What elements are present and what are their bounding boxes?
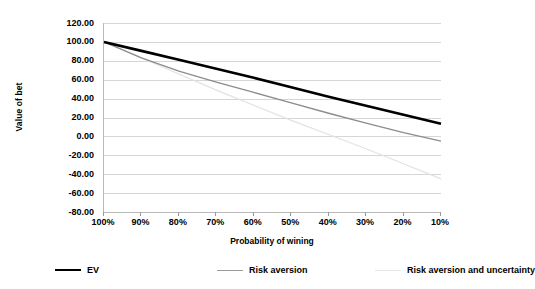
series-lines	[104, 23, 441, 212]
y-axis-tick-labels: 120.00100.0080.0060.0040.0020.000.00-20.…	[40, 17, 98, 217]
x-axis-tick-mark	[103, 212, 104, 216]
legend-swatch-icon	[217, 270, 243, 271]
y-axis-tick-label: 40.00	[71, 94, 94, 103]
y-axis-tick-label: -80.00	[68, 208, 94, 217]
series-line	[104, 42, 441, 124]
x-axis-tick-label: 40%	[319, 218, 337, 228]
x-axis-tick-mark	[215, 212, 216, 216]
x-axis-tick-label: 70%	[206, 218, 224, 228]
legend-item[interactable]: Risk aversion and uncertainty	[375, 263, 535, 277]
x-axis-tick-label: 10%	[431, 218, 449, 228]
x-axis-tick-mark	[328, 212, 329, 216]
y-axis-tick-label: 20.00	[71, 113, 94, 122]
x-axis-tick-label: 100%	[91, 218, 114, 228]
chart-legend: EVRisk aversionRisk aversion and uncerta…	[55, 263, 447, 279]
x-axis-tick-mark	[140, 212, 141, 216]
x-axis-tick-mark	[365, 212, 366, 216]
x-axis-tick-label: 20%	[394, 218, 412, 228]
x-axis-tick-mark	[253, 212, 254, 216]
x-axis-tick-label: 90%	[131, 218, 149, 228]
y-axis-tick-label: 80.00	[71, 56, 94, 65]
y-axis-tick-label: 100.00	[66, 37, 94, 46]
x-axis-tick-marks	[103, 212, 441, 217]
y-axis-tick-label: -60.00	[68, 189, 94, 198]
x-axis-tick-mark	[403, 212, 404, 216]
legend-swatch-icon	[375, 270, 401, 271]
y-axis-title: Value of bet	[14, 62, 24, 152]
x-axis-tick-label: 30%	[356, 218, 374, 228]
legend-label: Risk aversion and uncertainty	[407, 266, 535, 275]
legend-item[interactable]: EV	[55, 263, 99, 277]
series-line	[104, 42, 441, 141]
x-axis-tick-mark	[290, 212, 291, 216]
x-axis-tick-label: 80%	[169, 218, 187, 228]
legend-swatch-icon	[55, 269, 81, 271]
y-axis-tick-label: -20.00	[68, 151, 94, 160]
y-axis-tick-label: 60.00	[71, 75, 94, 84]
x-axis-tick-label: 60%	[244, 218, 262, 228]
x-axis-tick-labels: 100%90%80%70%60%50%40%30%20%10%	[103, 218, 441, 232]
x-axis-title: Probability of wining	[103, 236, 441, 246]
x-axis-tick-mark	[440, 212, 441, 216]
plot-area	[103, 23, 441, 212]
legend-label: Risk aversion	[249, 266, 308, 275]
y-axis-tick-label: 0.00	[76, 132, 94, 141]
y-axis-tick-label: 120.00	[66, 19, 94, 28]
y-axis-tick-label: -40.00	[68, 170, 94, 179]
x-axis-tick-mark	[178, 212, 179, 216]
legend-item[interactable]: Risk aversion	[217, 263, 308, 277]
legend-label: EV	[87, 266, 99, 275]
x-axis-tick-label: 50%	[281, 218, 299, 228]
